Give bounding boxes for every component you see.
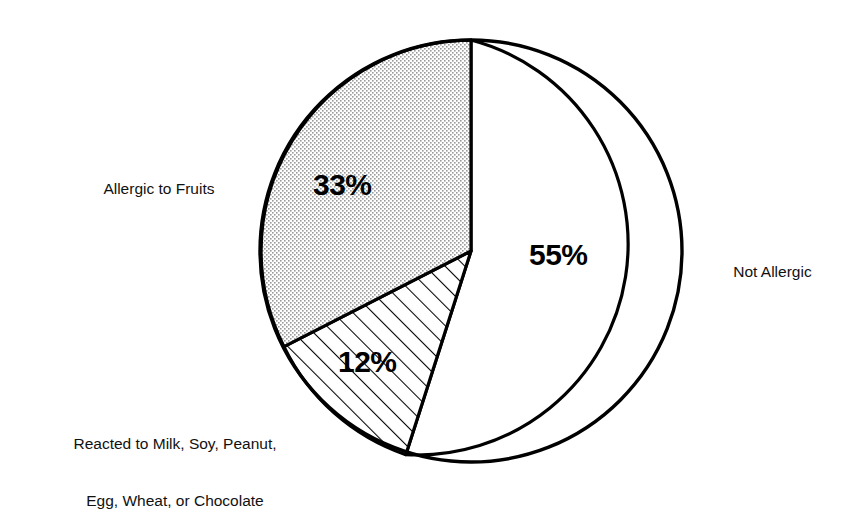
slice-label-reacted-to-foods: Reacted to Milk, Soy, Peanut, Egg, Wheat… bbox=[30, 396, 320, 513]
slice-label-allergic-to-fruits-text: Allergic to Fruits bbox=[103, 180, 214, 197]
slice-value-reacted-to-foods: 12% bbox=[338, 345, 397, 379]
slice-label-reacted-line-1: Reacted to Milk, Soy, Peanut, bbox=[30, 434, 320, 453]
slice-label-allergic-to-fruits: Allergic to Fruits bbox=[87, 160, 215, 217]
slice-label-reacted-line-2: Egg, Wheat, or Chocolate bbox=[30, 491, 320, 510]
slice-label-not-allergic: Not Allergic bbox=[716, 243, 812, 300]
slice-value-allergic-to-fruits: 33% bbox=[313, 168, 372, 202]
slice-label-not-allergic-text: Not Allergic bbox=[733, 263, 811, 280]
slice-value-not-allergic: 55% bbox=[529, 238, 588, 272]
